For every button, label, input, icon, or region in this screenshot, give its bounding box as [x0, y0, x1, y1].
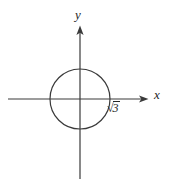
figure-container: y x √3	[0, 0, 175, 179]
y-axis-label: y	[75, 8, 81, 21]
coordinate-plane-diagram	[0, 0, 175, 179]
x-intercept-label: √3	[107, 101, 120, 114]
x-axis-label: x	[154, 88, 160, 101]
radicand-value: 3	[113, 101, 120, 114]
